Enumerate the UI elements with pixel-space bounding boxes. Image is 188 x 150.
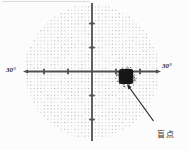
field-plot-canvas <box>0 0 188 150</box>
right-axis-degree-label: 30° <box>162 63 172 70</box>
left-axis-degree-label: 30° <box>6 67 16 74</box>
blind-spot-label: 盲点 <box>157 131 175 139</box>
visual-field-figure: 30° 30° 盲点 <box>0 0 188 150</box>
